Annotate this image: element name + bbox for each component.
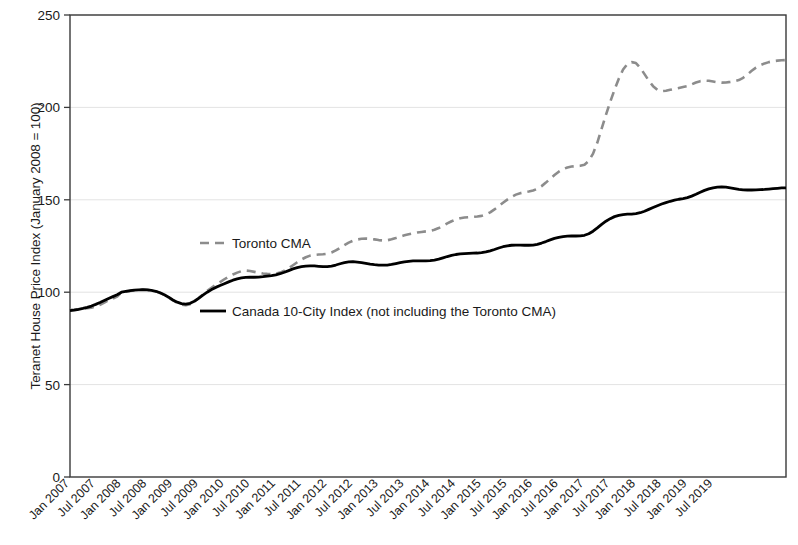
y-tick-label: 50 — [45, 378, 60, 393]
x-axis-ticks-group: Jan 2007Jul 2007Jan 2008Jul 2008Jan 2009… — [26, 476, 715, 522]
chart-plot-area: 050100150200250 Jan 2007Jul 2007Jan 2008… — [0, 0, 798, 545]
y-tick-label: 250 — [37, 8, 60, 23]
plot-border — [70, 15, 786, 477]
chart-figure: Teranet House Price Index (January 2008 … — [0, 0, 798, 545]
y-tick-label: 150 — [37, 193, 60, 208]
y-tick-label: 100 — [37, 285, 60, 300]
y-axis-ticks-group: 050100150200250 — [37, 8, 70, 485]
y-tick-label: 200 — [37, 100, 60, 115]
series-line-1 — [70, 60, 786, 310]
legend-label-2: Canada 10-City Index (not including the … — [232, 304, 556, 319]
legend-label-1: Toronto CMA — [232, 236, 311, 251]
data-series-group — [70, 60, 786, 311]
plot-frame — [70, 15, 786, 477]
